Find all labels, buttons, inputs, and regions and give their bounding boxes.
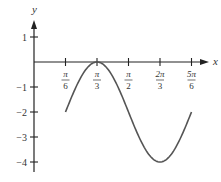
x-tick-numerator: 5π (187, 69, 197, 79)
tick-labels: π6π3π22π35π61−1−2−3−4 (16, 32, 196, 168)
x-tick-denominator: 3 (158, 81, 163, 91)
x-tick-numerator: 2π (155, 69, 165, 79)
axes (31, 20, 209, 172)
x-tick-numerator: π (126, 69, 131, 79)
x-tick-denominator: 2 (126, 81, 131, 91)
y-tick-label: −3 (16, 132, 27, 143)
x-tick-denominator: 6 (189, 81, 194, 91)
y-tick-label: −4 (16, 157, 27, 168)
x-tick-numerator: π (95, 69, 100, 79)
x-tick-denominator: 6 (63, 81, 68, 91)
x-axis-label: x (212, 55, 218, 67)
x-tick-numerator: π (63, 69, 68, 79)
y-axis-arrow-icon (31, 20, 37, 29)
ticks (30, 37, 192, 162)
y-tick-label: 1 (22, 32, 27, 43)
y-tick-label: −1 (16, 82, 27, 93)
y-axis-label: y (31, 3, 37, 15)
x-tick-denominator: 3 (95, 81, 100, 91)
x-axis-arrow-icon (200, 59, 209, 65)
y-tick-label: −2 (16, 107, 27, 118)
function-graph: π6π3π22π35π61−1−2−3−4 x y (0, 0, 221, 182)
